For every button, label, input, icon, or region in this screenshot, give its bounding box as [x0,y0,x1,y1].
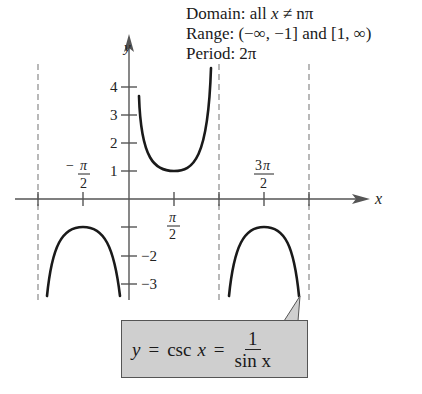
x-tick-label-pi-over-2: π 2 [167,210,180,242]
x-tick-label-neg-pi-over-2: − π 2 [66,158,90,191]
y-tick-labels: 4 3 2 1 −2 −3 [110,79,157,292]
branch-right [229,227,299,296]
domain-text: Domain: all x ≠ nπ [186,4,372,24]
asymptotes [38,64,309,300]
svg-text:2: 2 [80,176,87,191]
svg-text:−: − [66,158,74,173]
x-axis-label: x [374,190,382,207]
svg-text:2: 2 [169,227,176,242]
svg-text:π: π [169,210,177,225]
x-tick-label-3pi-over-2: 3 π 2 [254,158,274,191]
formula-callout: y = csc x = 1 sin x [121,320,308,378]
y-axis [121,42,137,300]
svg-text:−2: −2 [141,248,157,264]
branch-left [47,227,120,296]
formula: y = csc x = 1 sin x [132,328,271,371]
svg-text:4: 4 [110,79,118,95]
callout-pointer [284,296,300,321]
svg-text:1: 1 [110,163,118,179]
period-text: Period: 2π [186,44,372,64]
svg-text:2: 2 [110,135,118,151]
svg-text:−3: −3 [141,276,157,292]
svg-text:π: π [80,158,88,173]
x-axis [15,192,362,206]
range-text: Range: (−∞, −1] and [1, ∞) [186,24,372,44]
svg-text:π: π [263,158,271,173]
fraction: 1 sin x [235,328,271,371]
svg-text:3: 3 [110,107,118,123]
y-axis-label: y [122,39,131,55]
svg-text:3: 3 [255,158,262,173]
properties-panel: Domain: all x ≠ nπ Range: (−∞, −1] and [… [186,4,372,64]
svg-text:2: 2 [260,176,267,191]
branch-middle [139,68,211,171]
